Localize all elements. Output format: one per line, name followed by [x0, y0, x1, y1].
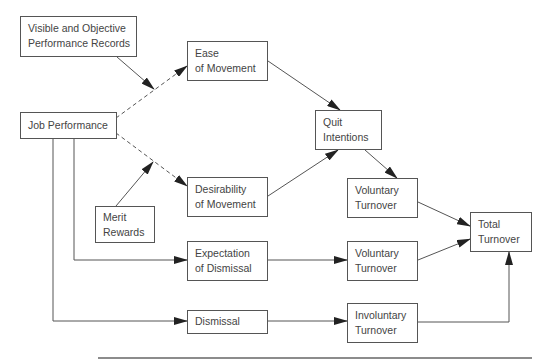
node-visible-performance-records: Visible and Objective Performance Record…	[20, 16, 137, 57]
node-job-performance: Job Performance	[20, 112, 117, 139]
node-label-line: Performance Records	[28, 36, 129, 51]
node-label-line: Job Performance	[28, 118, 109, 133]
node-voluntary-turnover-2: Voluntary Turnover	[347, 241, 418, 281]
node-voluntary-turnover-1: Voluntary Turnover	[347, 178, 418, 218]
node-label-line: Quit	[323, 115, 374, 130]
node-label-line: Visible and Objective	[28, 21, 129, 36]
node-dismissal: Dismissal	[187, 310, 268, 334]
node-label-line: Total	[478, 217, 524, 232]
node-label-line: Ease	[195, 46, 260, 61]
node-merit-rewards: Merit Rewards	[95, 206, 155, 243]
node-label-line: Involuntary	[355, 308, 410, 323]
node-label-line: of Movement	[195, 61, 260, 76]
edge-quit-to-voluntary1	[365, 150, 397, 178]
node-label-line: Voluntary	[355, 183, 410, 198]
node-desirability-of-movement: Desirability of Movement	[187, 177, 268, 217]
node-label-line: Intentions	[323, 130, 374, 145]
node-involuntary-turnover: Involuntary Turnover	[347, 303, 418, 343]
edge-ease-to-quit	[268, 61, 340, 110]
node-ease-of-movement: Ease of Movement	[187, 41, 268, 81]
edge-merit-to-link	[116, 162, 153, 206]
node-total-turnover: Total Turnover	[470, 212, 532, 252]
node-label-line: Voluntary	[355, 246, 410, 261]
node-quit-intentions: Quit Intentions	[315, 110, 382, 150]
node-label-line: Merit	[103, 210, 147, 225]
node-label-line: Dismissal	[195, 314, 260, 329]
edge-involuntary-to-total	[418, 252, 509, 322]
edge-desirability-to-quit	[268, 150, 338, 196]
node-label-line: Rewards	[103, 225, 147, 240]
edge-visible-to-link	[117, 57, 154, 89]
edge-job-to-desirability	[116, 133, 187, 186]
node-label-line: of Dismissal	[195, 261, 260, 276]
edge-voluntary2-to-total	[418, 239, 470, 260]
node-label-line: of Movement	[195, 197, 260, 212]
node-label-line: Turnover	[355, 261, 410, 276]
node-label-line: Turnover	[478, 232, 524, 247]
node-label-line: Turnover	[355, 323, 410, 338]
node-label-line: Expectation	[195, 246, 260, 261]
node-label-line: Desirability	[195, 182, 260, 197]
node-expectation-of-dismissal: Expectation of Dismissal	[187, 241, 268, 281]
edge-job-to-ease	[116, 66, 187, 118]
edge-voluntary1-to-total	[418, 202, 470, 226]
node-label-line: Turnover	[355, 198, 410, 213]
